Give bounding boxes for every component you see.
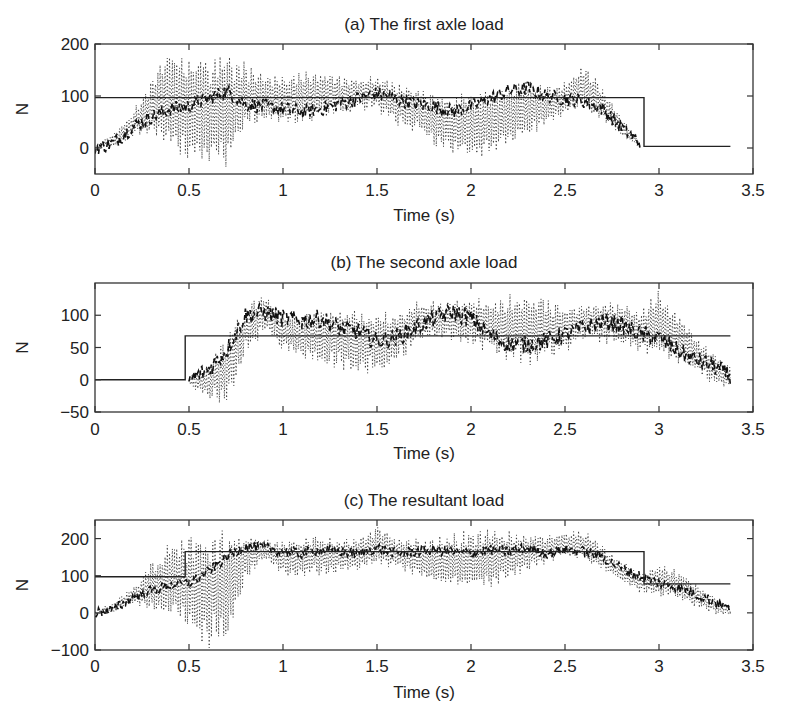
y-tick-label: 100 — [61, 87, 89, 106]
y-tick-label: 200 — [61, 530, 89, 549]
y-tick-label: 50 — [70, 339, 89, 358]
measured-series — [95, 82, 640, 153]
x-tick-label: 3 — [654, 657, 663, 676]
x-tick-label: 1 — [278, 181, 287, 200]
x-tick-label: 1.5 — [365, 420, 389, 439]
y-tick-label: −50 — [60, 403, 89, 422]
x-tick-label: 0 — [90, 657, 99, 676]
y-tick-label: 100 — [61, 306, 89, 325]
x-tick-label: 0.5 — [177, 657, 201, 676]
static-load-step — [95, 336, 730, 380]
y-axis-label: N — [13, 341, 32, 353]
x-tick-label: 0 — [90, 420, 99, 439]
chart-canvas: (a) The first axle load00.511.522.533.50… — [0, 0, 788, 725]
x-tick-label: 2 — [466, 181, 475, 200]
x-tick-label: 3.5 — [741, 181, 765, 200]
x-tick-label: 2 — [466, 420, 475, 439]
y-tick-label: 100 — [61, 567, 89, 586]
x-tick-label: 1.5 — [365, 181, 389, 200]
measured-series — [95, 542, 730, 617]
y-tick-label: 200 — [61, 35, 89, 54]
panel-title: (b) The second axle load — [331, 253, 518, 272]
x-axis-label: Time (s) — [393, 683, 455, 702]
x-tick-label: 1.5 — [365, 657, 389, 676]
x-tick-label: 0 — [90, 181, 99, 200]
simulated-series — [95, 527, 730, 648]
x-axis-label: Time (s) — [393, 444, 455, 463]
plot-area — [95, 57, 730, 167]
simulated-series — [95, 57, 640, 167]
panel-a: (a) The first axle load00.511.522.533.50… — [13, 15, 765, 225]
plot-area — [95, 527, 730, 648]
panel-b: (b) The second axle load00.511.522.533.5… — [13, 253, 765, 463]
y-tick-label: 0 — [80, 371, 89, 390]
y-tick-label: 0 — [80, 139, 89, 158]
x-tick-label: 3 — [654, 420, 663, 439]
x-tick-label: 3.5 — [741, 420, 765, 439]
y-tick-label: 0 — [80, 604, 89, 623]
x-tick-label: 3.5 — [741, 657, 765, 676]
axes-frame — [95, 283, 753, 412]
x-tick-label: 2.5 — [553, 181, 577, 200]
x-tick-label: 0.5 — [177, 420, 201, 439]
y-axis-label: N — [13, 103, 32, 115]
plot-area — [95, 291, 730, 403]
panel-c: (c) The resultant load00.511.522.533.5−1… — [13, 491, 765, 702]
x-tick-label: 2 — [466, 657, 475, 676]
figure: (a) The first axle load00.511.522.533.50… — [0, 0, 788, 725]
x-axis-label: Time (s) — [393, 206, 455, 225]
x-tick-label: 2.5 — [553, 420, 577, 439]
y-tick-label: −100 — [51, 641, 89, 660]
x-tick-label: 3 — [654, 181, 663, 200]
panel-title: (c) The resultant load — [344, 491, 504, 510]
x-tick-label: 1 — [278, 420, 287, 439]
panel-title: (a) The first axle load — [344, 15, 503, 34]
x-tick-label: 1 — [278, 657, 287, 676]
x-tick-label: 0.5 — [177, 181, 201, 200]
y-axis-label: N — [13, 579, 32, 591]
x-tick-label: 2.5 — [553, 657, 577, 676]
